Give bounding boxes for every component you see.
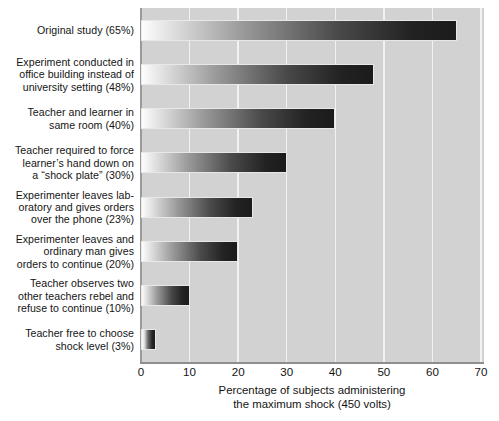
- bar: [141, 108, 335, 129]
- gridline-10: [189, 8, 190, 362]
- x-tick-label-30: 30: [280, 365, 293, 379]
- category-label: Experiment conducted in office building …: [0, 56, 134, 93]
- gridline-60: [432, 8, 433, 362]
- bar: [141, 285, 190, 306]
- bar: [141, 329, 156, 350]
- category-axis-labels: Original study (65%)Experiment conducted…: [0, 8, 134, 362]
- x-tick-label-40: 40: [329, 365, 342, 379]
- category-label: Teacher and learner in same room (40%): [0, 106, 134, 131]
- category-label: Teacher required to force learner’s hand…: [0, 144, 134, 181]
- x-tick-label-50: 50: [377, 365, 390, 379]
- x-tick-label-20: 20: [232, 365, 245, 379]
- gridline-70: [480, 8, 481, 362]
- bar: [141, 241, 238, 262]
- x-tick-label-70: 70: [475, 365, 488, 379]
- bar: [141, 64, 374, 85]
- category-label: Experimenter leaves lab- oratory and giv…: [0, 189, 134, 226]
- x-tick-label-0: 0: [138, 365, 144, 379]
- x-tick-label-10: 10: [183, 365, 196, 379]
- category-label: Original study (65%): [0, 24, 134, 36]
- category-label: Teacher free to choose shock level (3%): [0, 327, 134, 352]
- gridline-50: [383, 8, 384, 362]
- bar-chart: Original study (65%)Experiment conducted…: [0, 0, 499, 421]
- gridline-20: [237, 8, 238, 362]
- bar: [141, 152, 287, 173]
- x-axis-line: [140, 362, 484, 364]
- plot-area: [140, 8, 484, 362]
- gridline-40: [335, 8, 336, 362]
- category-label: Experimenter leaves and ordinary man giv…: [0, 233, 134, 270]
- x-axis-caption-line-1: Percentage of subjects administering: [140, 384, 484, 398]
- x-tick-label-60: 60: [426, 365, 439, 379]
- bar: [141, 20, 457, 41]
- x-axis-caption-line-2: the maximum shock (450 volts): [140, 398, 484, 412]
- category-label: Teacher observes two other teachers rebe…: [0, 277, 134, 314]
- x-axis-caption: Percentage of subjects administering the…: [140, 384, 484, 411]
- gridline-0: [140, 8, 141, 362]
- gridline-30: [286, 8, 287, 362]
- bar: [141, 197, 253, 218]
